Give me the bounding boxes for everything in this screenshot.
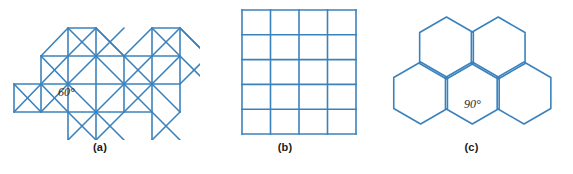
- panel-hexagonal-tessellation: 120° (c): [370, 0, 573, 174]
- triangular-lattice-lines: [14, 28, 200, 140]
- hexagon-outlines: [394, 17, 551, 124]
- hexagon-top-right: [471, 17, 525, 79]
- panel-square-tessellation: 90° (b): [200, 0, 370, 174]
- hexagon-top-left: [420, 17, 474, 79]
- caption-a: (a): [0, 141, 200, 153]
- hexagonal-tessellation-svg: [370, 0, 573, 140]
- angle-label-60: 60°: [58, 85, 75, 100]
- square-grid-lines: [242, 10, 356, 134]
- tessellation-figure-row: 60° (a) 90° (b): [0, 0, 573, 174]
- hexagon-bottom-middle: [445, 62, 499, 124]
- hexagon-bottom-left: [394, 62, 448, 124]
- caption-c: (c): [370, 141, 573, 153]
- caption-b: (b): [200, 141, 370, 153]
- panel-triangular-tessellation: 60° (a): [0, 0, 200, 174]
- square-tessellation-svg: [200, 0, 370, 140]
- triangular-tessellation-svg: [0, 0, 200, 140]
- hexagon-bottom-right: [497, 62, 551, 124]
